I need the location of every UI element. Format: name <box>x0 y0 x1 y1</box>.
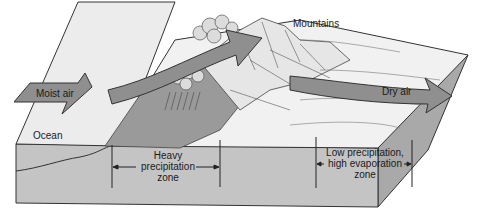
label-dry-air: Dry air <box>382 86 411 97</box>
label-mountains: Mountains <box>293 18 339 29</box>
block-diagram-illustration <box>0 0 485 212</box>
low-zone-line3: zone <box>318 169 412 180</box>
heavy-precip-zone-label: Heavy precipitation zone <box>128 150 208 183</box>
label-moist-air: Moist air <box>36 88 74 99</box>
heavy-zone-line2: precipitation <box>128 161 208 172</box>
low-precip-zone-label: Low precipitation, high evaporation zone <box>318 147 412 180</box>
diagram-canvas: Mountains Moist air Dry air Ocean Heavy … <box>0 0 485 212</box>
low-zone-line1: Low precipitation, <box>318 147 412 158</box>
heavy-zone-line1: Heavy <box>128 150 208 161</box>
low-zone-line2: high evaporation <box>318 158 412 169</box>
label-ocean: Ocean <box>33 130 62 141</box>
heavy-zone-line3: zone <box>128 172 208 183</box>
